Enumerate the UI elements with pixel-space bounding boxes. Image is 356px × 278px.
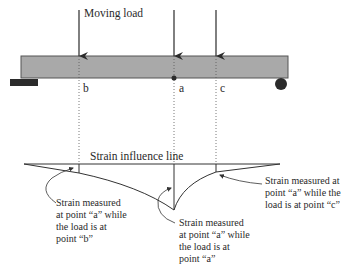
svg-text:point “a”: point “a” bbox=[179, 253, 215, 264]
point-c-label: c bbox=[220, 82, 225, 94]
point-a-marker bbox=[172, 76, 177, 81]
annotation-load-at-b: Strain measured at point “a” while the l… bbox=[56, 197, 127, 244]
svg-text:the load is at: the load is at bbox=[179, 241, 230, 252]
svg-text:Strain measured: Strain measured bbox=[56, 197, 121, 208]
point-b-label: b bbox=[83, 82, 89, 94]
point-a-label: a bbox=[179, 82, 184, 94]
left-support bbox=[10, 79, 38, 86]
beam bbox=[21, 56, 288, 78]
annotation-load-at-a: Strain measured at point “a” while the l… bbox=[179, 217, 250, 264]
moving-load-label: Moving load bbox=[84, 7, 143, 20]
svg-text:Strain measured at: Strain measured at bbox=[265, 175, 340, 186]
svg-text:Strain measured: Strain measured bbox=[179, 217, 244, 228]
roller-support bbox=[275, 78, 287, 90]
svg-text:at point “a” while: at point “a” while bbox=[56, 209, 127, 220]
svg-text:the load is at: the load is at bbox=[56, 221, 107, 232]
svg-text:point “b”: point “b” bbox=[56, 233, 93, 244]
influence-line-diagram: Moving load b a c Strain influence line … bbox=[0, 0, 356, 278]
svg-text:at point “a” while: at point “a” while bbox=[179, 229, 250, 240]
svg-text:point “a” while the: point “a” while the bbox=[265, 187, 341, 198]
annotation-load-at-c: Strain measured at point “a” while the l… bbox=[265, 175, 341, 210]
svg-text:load is at point “c”: load is at point “c” bbox=[265, 199, 340, 210]
leader-load-at-c bbox=[220, 175, 262, 184]
influence-line-title: Strain influence line bbox=[90, 150, 183, 162]
